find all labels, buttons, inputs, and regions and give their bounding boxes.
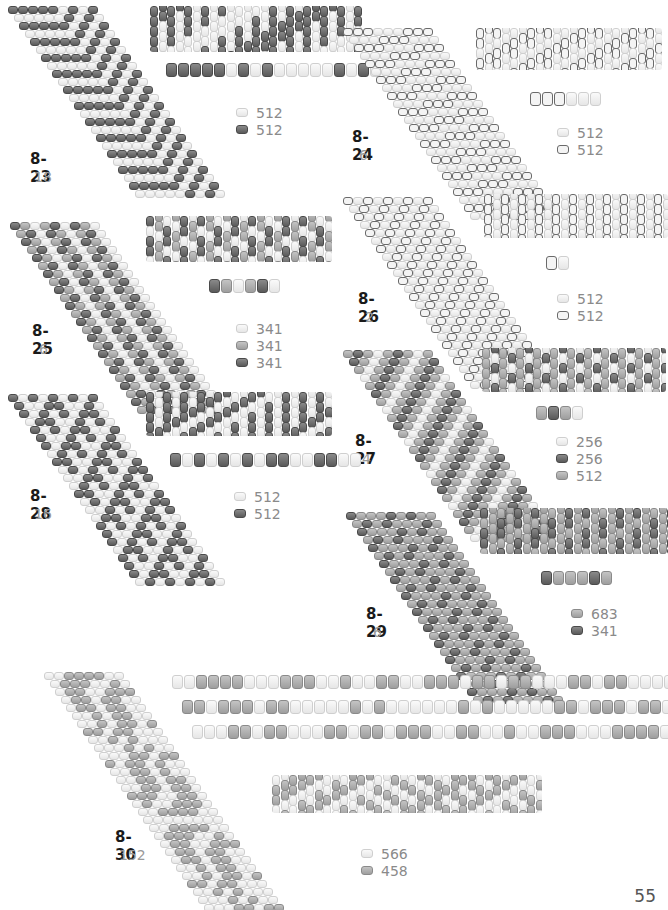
bead bbox=[132, 712, 142, 720]
bead bbox=[376, 76, 386, 84]
bead bbox=[514, 548, 522, 554]
bead bbox=[415, 454, 425, 462]
bead bbox=[205, 190, 215, 198]
bead bbox=[487, 164, 497, 172]
bead bbox=[118, 736, 128, 744]
bead bbox=[177, 538, 187, 546]
bead bbox=[440, 462, 450, 470]
bead bbox=[359, 205, 369, 213]
bead bbox=[195, 578, 205, 586]
bead bbox=[426, 512, 436, 520]
bead bbox=[121, 442, 131, 450]
bead bbox=[48, 6, 58, 14]
bead bbox=[519, 810, 527, 813]
bead bbox=[223, 427, 231, 436]
bead bbox=[171, 856, 181, 864]
bead bbox=[159, 182, 169, 190]
bead bbox=[105, 760, 115, 768]
bead bbox=[49, 22, 59, 30]
bead bbox=[426, 317, 436, 325]
bead bbox=[438, 277, 448, 285]
bead bbox=[125, 302, 135, 310]
bead bbox=[98, 466, 108, 474]
bead bbox=[366, 512, 376, 520]
bead bbox=[485, 656, 495, 664]
bead bbox=[144, 562, 154, 570]
bead bbox=[19, 22, 29, 30]
bead bbox=[451, 68, 461, 76]
bead bbox=[444, 725, 455, 739]
bead bbox=[411, 237, 421, 245]
bead bbox=[433, 536, 443, 544]
bead bbox=[141, 514, 151, 522]
bead bbox=[90, 38, 100, 46]
bead bbox=[401, 592, 411, 600]
bead bbox=[52, 254, 62, 262]
bead bbox=[230, 840, 240, 848]
bead bbox=[129, 752, 139, 760]
bead bbox=[417, 92, 427, 100]
bead bbox=[548, 406, 559, 420]
bead bbox=[417, 528, 427, 536]
bead bbox=[84, 402, 94, 410]
bead bbox=[432, 84, 442, 92]
bead bbox=[422, 84, 432, 92]
bead bbox=[354, 213, 364, 221]
bead bbox=[475, 454, 485, 462]
bead bbox=[91, 238, 101, 246]
bead bbox=[442, 84, 452, 92]
bead bbox=[316, 675, 327, 689]
bead bbox=[160, 498, 170, 506]
bead bbox=[146, 256, 154, 262]
bead bbox=[113, 474, 123, 482]
bead bbox=[209, 279, 220, 293]
bead bbox=[616, 548, 624, 554]
bead bbox=[481, 325, 491, 333]
bead bbox=[127, 150, 137, 158]
bead bbox=[290, 700, 301, 714]
bead bbox=[485, 454, 495, 462]
bead bbox=[286, 63, 297, 77]
bead bbox=[165, 374, 175, 382]
bead bbox=[512, 172, 522, 180]
bead bbox=[616, 675, 627, 689]
bead bbox=[448, 349, 458, 357]
bead bbox=[149, 570, 159, 578]
bead bbox=[329, 51, 337, 52]
bead bbox=[148, 166, 158, 174]
bead bbox=[130, 110, 140, 118]
bead bbox=[66, 434, 76, 442]
bead bbox=[136, 134, 146, 142]
bead bbox=[654, 234, 662, 238]
bead bbox=[231, 856, 241, 864]
bead bbox=[76, 704, 86, 712]
bead bbox=[76, 434, 86, 442]
bead bbox=[140, 294, 150, 302]
bead bbox=[373, 350, 383, 358]
bead bbox=[508, 383, 516, 392]
bead bbox=[144, 490, 154, 498]
bead bbox=[393, 350, 403, 358]
bead bbox=[484, 675, 495, 689]
bead bbox=[99, 278, 109, 286]
bead bbox=[137, 792, 147, 800]
legend-item: 256 bbox=[556, 433, 603, 450]
bead bbox=[593, 383, 601, 392]
bead bbox=[101, 514, 111, 522]
bead-quantity: 341 bbox=[256, 321, 283, 337]
bead bbox=[455, 568, 465, 576]
bead bbox=[404, 552, 414, 560]
bead bbox=[195, 190, 205, 198]
bead bbox=[114, 744, 124, 752]
bead bbox=[446, 470, 456, 478]
bead bbox=[107, 150, 117, 158]
bead bbox=[542, 92, 553, 106]
bead bbox=[540, 553, 548, 554]
bead bbox=[190, 63, 201, 77]
bead bbox=[94, 744, 104, 752]
bead bbox=[111, 442, 121, 450]
bead bbox=[129, 94, 139, 102]
bead bbox=[435, 229, 445, 237]
bead bbox=[406, 398, 416, 406]
bead bbox=[363, 197, 373, 205]
